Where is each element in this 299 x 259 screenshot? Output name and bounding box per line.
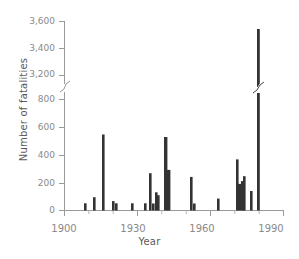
chart-container: Number of fatalities Year 3,600 3,400 3,… — [0, 0, 299, 259]
bar — [112, 201, 115, 210]
bar-group — [84, 29, 260, 211]
bar — [131, 203, 134, 210]
bar — [164, 137, 167, 211]
bar-tallest-lower — [257, 93, 260, 211]
bar — [102, 135, 105, 211]
bar — [157, 195, 160, 210]
x-minor-tick-marks — [89, 211, 259, 215]
bar — [250, 191, 253, 211]
x-major-tick-marks — [65, 211, 284, 217]
bar — [193, 204, 196, 211]
bar — [93, 197, 96, 210]
bar — [144, 203, 147, 210]
bar — [149, 173, 152, 210]
bar-tallest-upper — [257, 29, 260, 87]
bar — [115, 203, 118, 210]
bar — [243, 176, 246, 210]
bar — [167, 170, 170, 211]
y-tick-marks — [59, 22, 65, 211]
bar — [84, 203, 87, 210]
plot-area — [0, 0, 299, 259]
bar — [238, 184, 241, 211]
bar — [217, 199, 220, 211]
bar — [152, 204, 155, 211]
bar — [190, 177, 193, 211]
